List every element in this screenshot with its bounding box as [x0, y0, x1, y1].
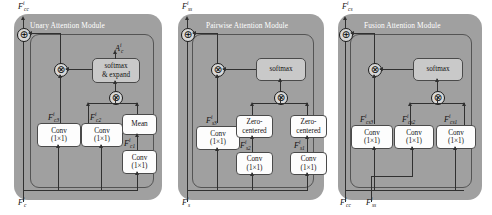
wire-fusion-skip-ss	[371, 176, 372, 202]
box-conv-c1: Conv (1×1)	[122, 150, 157, 174]
box-mean: Mean	[122, 114, 157, 135]
wire-pairwise-in-s3	[217, 148, 218, 191]
wire-fusion-softmax-out	[380, 69, 413, 70]
wire-pairwise-input-bus	[187, 190, 307, 191]
arrowhead-unary-in-c2	[99, 144, 103, 148]
arrowhead-unary-add-in	[28, 31, 32, 35]
wire-pairwise-add-in	[193, 33, 218, 34]
arrowhead-pairwise-in-s3	[215, 147, 219, 151]
label-conv-cs3: Fics3	[360, 115, 374, 124]
box-conv-s2-line1: Conv	[247, 155, 263, 163]
wire-fusion-mul-stub	[437, 97, 438, 104]
box-conv-s1-line1: Conv	[301, 155, 317, 163]
box-conv-c2-line2: (1×1)	[94, 135, 110, 143]
wire-fusion-skip-cc	[345, 40, 346, 202]
label-fusion-output: Fics	[342, 2, 353, 11]
arrowhead-unary-in-c3	[56, 144, 60, 148]
box-softmax-pairwise-line1: softmax	[269, 65, 292, 73]
label-unary-output: Ficc	[18, 2, 29, 11]
arrowhead-pairwise-add-in	[192, 31, 196, 35]
box-conv-c2-line1: Conv	[94, 127, 110, 135]
wire-fusion-cs3-up	[374, 75, 375, 124]
label-pairwise-output: Fiss	[182, 2, 193, 11]
box-conv-cs1-line1: Conv	[448, 129, 464, 137]
arrowhead-fusion-bracket-left	[408, 102, 412, 106]
box-zero-centered-2-line2: centered	[242, 127, 266, 135]
label-conv-c3: Fic3	[48, 113, 59, 122]
box-conv-c1-line1: Conv	[132, 154, 148, 162]
arrowhead-pairwise-s3-up	[215, 74, 219, 78]
wire-unary-mul-stub	[115, 97, 116, 104]
arrowhead-s1-to-zero	[305, 135, 309, 139]
box-conv-c1-line2: (1×1)	[131, 162, 147, 170]
op-add-unary-glyph: ⊕	[20, 30, 28, 40]
wire-pairwise-mul-stub	[280, 97, 281, 104]
arrowhead-fusion-add-in	[350, 31, 354, 35]
arrowhead-fusion-cs3-up	[372, 74, 376, 78]
arrowhead-unary-in-c1	[135, 171, 139, 175]
arrowhead-unary-bracket-left	[86, 102, 90, 106]
box-conv-s2-line2: (1×1)	[246, 164, 262, 172]
op-add-pairwise-glyph: ⊕	[184, 30, 192, 40]
label-conv-cs2: Fics2	[402, 115, 416, 124]
arrowhead-pairwise-softmax-in	[278, 78, 282, 82]
arrowhead-s2-to-zero	[250, 135, 254, 139]
arrowhead-pairwise-in-s2	[250, 172, 254, 176]
label-conv-s1: Fis1	[294, 141, 305, 150]
box-conv-cs3-line2: (1×1)	[364, 137, 380, 145]
box-conv-cs2: Conv (1×1)	[394, 125, 434, 149]
box-conv-cs2-line1: Conv	[406, 129, 422, 137]
panel-title-unary: Unary Attention Module	[30, 21, 105, 30]
wire-pairwise-skip	[187, 40, 188, 202]
box-zero-centered-2-line1: Zero-	[247, 118, 263, 126]
arrowhead-unary-c3-up	[58, 74, 62, 78]
label-conv-cs1: Fics1	[444, 115, 458, 124]
wire-fusion-in-cs2	[412, 147, 413, 177]
wire-unary-mul-bracket	[88, 103, 138, 104]
arrowhead-fusion-softmax-out	[379, 67, 383, 71]
arrowhead-unary-softmax-out	[65, 67, 69, 71]
box-zero-centered-2: Zero- centered	[236, 115, 273, 138]
wire-pairwise-softmax-out	[223, 69, 256, 70]
arrowhead-unary-softmax-in	[113, 80, 117, 84]
arrowhead-pairwise-bracket-left	[250, 102, 254, 106]
panel-title-pairwise: Pairwise Attention Module	[206, 21, 288, 30]
wire-fusion-input-bus-cc	[345, 190, 464, 191]
label-conv-c1: Fic1	[124, 139, 135, 148]
arrowhead-pairwise-softmax-out	[222, 67, 226, 71]
label-conv-s3: Fis3	[206, 116, 217, 125]
wire-unary-bracket-left	[88, 103, 89, 123]
wire-fusion-output	[345, 18, 346, 29]
box-conv-cs1-line2: (1×1)	[448, 137, 464, 145]
wire-fusion-input-bus-ss	[371, 176, 413, 177]
box-conv-s3-line2: (1×1)	[210, 138, 226, 146]
arrowhead-c1-to-mean	[135, 133, 139, 137]
wire-fusion-in-cs1	[455, 147, 456, 191]
wire-fusion-add-in	[351, 33, 375, 34]
arrowhead-pairwise-in-s1	[305, 172, 309, 176]
wire-unary-output	[23, 18, 24, 29]
box-softmax-expand-unary-line1: softmax	[104, 62, 127, 70]
arrowhead-fusion-in-cs3	[372, 146, 376, 150]
wire-pairwise-output	[187, 18, 188, 29]
box-softmax-expand-unary-line2: & expand	[102, 71, 130, 79]
box-conv-cs3-line1: Conv	[364, 129, 380, 137]
box-conv-c3-line2: (1×1)	[51, 135, 67, 143]
wire-unary-c3-up	[60, 75, 61, 123]
box-conv-s3-line1: Conv	[210, 130, 226, 138]
wire-fusion-in-cs3	[374, 147, 375, 191]
arrowhead-unary-bracket-right	[135, 102, 139, 106]
arrowhead-fusion-in-cs2	[410, 146, 414, 150]
panel-title-fusion: Fusion Attention Module	[364, 21, 441, 30]
arrowhead-unary-attn-out	[113, 50, 117, 54]
wire-unary-input-bus	[23, 190, 138, 191]
wire-unary-in-c2	[101, 145, 102, 191]
box-zero-centered-1-line1: Zero-	[301, 118, 317, 126]
arrowhead-fusion-bracket-right	[462, 102, 466, 106]
attention-modules-figure: Unary Attention Module Ficc Fic Aic ⊕ ⊗ …	[0, 0, 492, 215]
wire-unary-softmax-out	[66, 69, 92, 70]
wire-unary-in-c3	[58, 145, 59, 191]
arrowhead-pairwise-bracket-right	[305, 102, 309, 106]
box-mean-line1: Mean	[131, 120, 147, 128]
wire-unary-add-in	[29, 33, 61, 34]
